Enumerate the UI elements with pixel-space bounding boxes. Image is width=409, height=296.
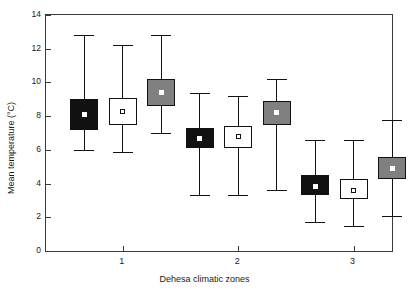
whisker-cap-lower [382,216,402,217]
y-tick-label: 2 [21,211,41,221]
x-tick-label: 3 [350,256,355,266]
y-tick-label: 4 [21,178,41,188]
y-tick-label: 14 [21,9,41,19]
median-marker [390,166,395,171]
x-tick-label: 1 [119,256,124,266]
y-tick-label: 8 [21,110,41,120]
y-axis-title: Mean temperature (°C) [2,0,20,296]
boxplot-chart: Mean temperature (°C) 02468101214 123 De… [0,0,409,296]
y-tick-label: 10 [21,76,41,86]
whisker-cap-upper [382,120,402,121]
y-tick-label: 12 [21,43,41,53]
x-tick-label: 2 [235,256,240,266]
y-tick-label: 0 [21,245,41,255]
plot-area [45,14,393,252]
y-tick-mark [46,251,51,252]
x-axis-title: Dehesa climatic zones [0,274,409,284]
box-zone3-gray [46,15,392,251]
y-tick-label: 6 [21,144,41,154]
